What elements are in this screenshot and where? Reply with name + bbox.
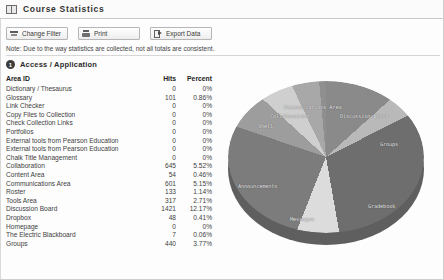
cell-hits: 0: [146, 119, 176, 128]
table-row: Portfolios00%: [6, 128, 212, 137]
pie-chart: Discussion BoardGroupsGradebookMessagesA…: [220, 69, 434, 280]
change-filter-label: Change Filter: [22, 30, 61, 37]
print-button[interactable]: Print: [78, 27, 140, 40]
table-row: External tools from Pearson Education00%: [6, 137, 212, 146]
table-row: Content Area540.46%: [6, 171, 212, 180]
cell-area-id: Communications Area: [6, 180, 146, 189]
cell-hits: 48: [146, 214, 176, 223]
change-filter-button[interactable]: Change Filter: [6, 27, 68, 40]
cell-area-id: Collaboration: [6, 162, 146, 171]
cell-percent: 0%: [176, 154, 212, 163]
cell-percent: 0%: [176, 85, 212, 94]
cell-area-id: Portfolios: [6, 128, 146, 137]
panel-left-border: [0, 19, 1, 280]
cell-hits: 0: [146, 145, 176, 154]
cell-hits: 0: [146, 102, 176, 111]
toolbar-container: Change Filter Print Export Data: [0, 19, 444, 40]
statistics-table-body: Dictionary / Thesaurus00%Glossary1010.86…: [6, 85, 212, 248]
cell-hits: 0: [146, 128, 176, 137]
cell-hits: 1421: [146, 205, 176, 214]
cell-area-id: Dropbox: [6, 214, 146, 223]
cell-percent: 0%: [176, 128, 212, 137]
cell-area-id: Tools Area: [6, 197, 146, 206]
pie-slice-label: Announcements: [238, 183, 277, 189]
cell-hits: 133: [146, 188, 176, 197]
table-row: Communications Area6015.15%: [6, 180, 212, 189]
cell-hits: 0: [146, 111, 176, 120]
cell-hits: 601: [146, 180, 176, 189]
export-data-label: Export Data: [166, 30, 200, 37]
filter-icon: [10, 30, 18, 38]
cell-percent: 1.14%: [176, 188, 212, 197]
export-data-button[interactable]: Export Data: [150, 27, 212, 40]
section-title: Access / Application: [20, 60, 97, 69]
column-header-area-id: Area ID: [6, 75, 146, 85]
table-header-row: Area ID Hits Percent: [6, 75, 212, 85]
course-statistics-page: Course Statistics Change Filter Print Ex…: [0, 0, 444, 280]
table-row: Homepage00%: [6, 223, 212, 232]
cell-percent: 0.06%: [176, 231, 212, 240]
table-row: The Electric Blackboard70.06%: [6, 231, 212, 240]
cell-hits: 645: [146, 162, 176, 171]
pie-slice-label: Messages: [290, 216, 314, 222]
table-row: Check Collection Links00%: [6, 119, 212, 128]
table-row: External tools from Pearson Education00%: [6, 145, 212, 154]
cell-percent: 0.41%: [176, 214, 212, 223]
cell-area-id: Roster: [6, 188, 146, 197]
table-row: Link Checker00%: [6, 102, 212, 111]
book-icon: [6, 5, 17, 14]
column-header-hits: Hits: [146, 75, 176, 85]
table-row: Dictionary / Thesaurus00%: [6, 85, 212, 94]
column-header-percent: Percent: [176, 75, 212, 85]
cell-percent: 2.71%: [176, 197, 212, 206]
pie-slice-label: Communications Area: [284, 104, 341, 110]
cell-percent: 0%: [176, 137, 212, 146]
table-row: Dropbox480.41%: [6, 214, 212, 223]
cell-percent: 3.77%: [176, 240, 212, 249]
cell-area-id: External tools from Pearson Education: [6, 137, 146, 146]
page-title: Course Statistics: [23, 4, 104, 14]
cell-area-id: Chalk Title Management: [6, 154, 146, 163]
pie-chart-graphic: Discussion BoardGroupsGradebookMessagesA…: [228, 71, 426, 271]
statistics-table-panel: Area ID Hits Percent Dictionary / Thesau…: [6, 69, 224, 248]
pie-slice-label: Gradebook: [368, 203, 395, 209]
pie-slice-label: Collaboration: [270, 113, 309, 119]
table-row: Discussion Board142112.17%: [6, 205, 212, 214]
cell-percent: 0.86%: [176, 94, 212, 103]
table-row: Chalk Title Management00%: [6, 154, 212, 163]
cell-hits: 101: [146, 94, 176, 103]
export-icon: [154, 30, 162, 38]
chart-panel: Discussion BoardGroupsGradebookMessagesA…: [224, 69, 444, 248]
table-row: Tools Area3172.71%: [6, 197, 212, 206]
cell-area-id: The Electric Blackboard: [6, 231, 146, 240]
cell-percent: 0.46%: [176, 171, 212, 180]
cell-area-id: Content Area: [6, 171, 146, 180]
pie-slice-label: Groups: [380, 141, 398, 147]
cell-hits: 0: [146, 154, 176, 163]
cell-area-id: Dictionary / Thesaurus: [6, 85, 146, 94]
statistics-table: Area ID Hits Percent Dictionary / Thesau…: [6, 75, 212, 248]
table-row: Glossary1010.86%: [6, 94, 212, 103]
cell-percent: 0%: [176, 223, 212, 232]
statistics-note: Note: Due to the way statistics are coll…: [6, 45, 440, 56]
cell-percent: 0%: [176, 145, 212, 154]
content-body: Area ID Hits Percent Dictionary / Thesau…: [0, 69, 444, 248]
cell-area-id: Link Checker: [6, 102, 146, 111]
section-number-badge: 1: [6, 60, 15, 69]
cell-hits: 0: [146, 137, 176, 146]
cell-hits: 54: [146, 171, 176, 180]
table-row: Groups4403.77%: [6, 240, 212, 249]
cell-area-id: Groups: [6, 240, 146, 249]
toolbar: Change Filter Print Export Data: [6, 27, 444, 40]
cell-percent: 0%: [176, 119, 212, 128]
cell-area-id: Discussion Board: [6, 205, 146, 214]
cell-percent: 5.15%: [176, 180, 212, 189]
printer-icon: [82, 30, 90, 38]
print-label: Print: [94, 30, 107, 37]
table-row: Collaboration6455.52%: [6, 162, 212, 171]
cell-area-id: External tools from Pearson Education: [6, 145, 146, 154]
cell-hits: 0: [146, 85, 176, 94]
pie-slice-label: Shell: [258, 123, 273, 129]
cell-percent: 0%: [176, 102, 212, 111]
cell-hits: 7: [146, 231, 176, 240]
